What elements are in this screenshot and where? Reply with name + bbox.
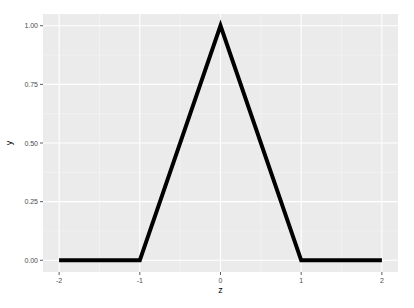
y-axis: 0.000.250.500.751.00 xyxy=(24,22,43,264)
x-tick-label: -2 xyxy=(56,277,62,284)
y-axis-title: y xyxy=(4,140,14,145)
x-tick-label: 2 xyxy=(380,277,384,284)
chart: 0.000.250.500.751.00 -2-1012 z y xyxy=(0,0,414,308)
y-tick-label: 0.75 xyxy=(24,81,38,88)
x-tick-label: -1 xyxy=(137,277,143,284)
x-tick-label: 1 xyxy=(299,277,303,284)
x-axis-title: z xyxy=(218,285,223,295)
y-tick-label: 0.50 xyxy=(24,140,38,147)
y-tick-label: 0.00 xyxy=(24,257,38,264)
x-tick-label: 0 xyxy=(219,277,223,284)
y-tick-label: 0.25 xyxy=(24,198,38,205)
x-axis: -2-1012 xyxy=(56,272,384,284)
y-tick-label: 1.00 xyxy=(24,22,38,29)
